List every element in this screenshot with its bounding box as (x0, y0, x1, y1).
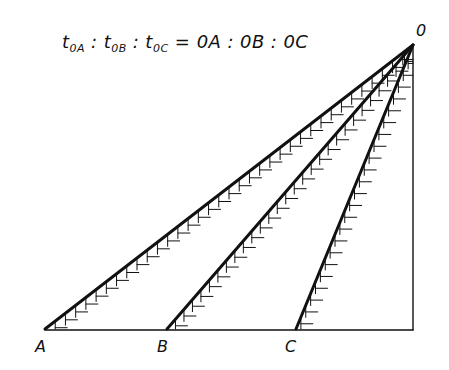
incline-oc (296, 45, 413, 329)
t-0b: t0B (104, 31, 127, 52)
length-0a: 0A (197, 31, 222, 52)
incline-ob (167, 45, 413, 329)
label-o: 0 (416, 21, 426, 40)
t-0c: t0C (145, 31, 168, 52)
length-0b: 0B (240, 31, 265, 52)
time-ratio-formula: t0A:t0B:t0C = 0A:0B:0C (62, 31, 308, 55)
t-0a: t0A (62, 31, 85, 52)
hatching (55, 53, 413, 329)
equals-sign: = (175, 31, 191, 52)
length-0c: 0C (283, 31, 308, 52)
label-b: B (157, 337, 168, 356)
inclined-planes-diagram (0, 0, 449, 370)
label-c: C (285, 337, 296, 356)
label-a: A (35, 337, 46, 356)
incline-lines (45, 45, 413, 330)
incline-oa (45, 45, 413, 329)
